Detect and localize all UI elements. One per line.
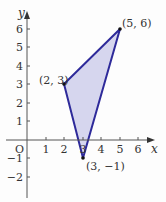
- x-axis-label: x: [151, 142, 158, 156]
- vertex-point: [81, 156, 85, 160]
- x-tick-label: 2: [61, 143, 68, 156]
- vertex-label: (3, −1): [86, 160, 125, 173]
- y-tick-label: 4: [16, 60, 23, 73]
- x-tick-label: 4: [98, 143, 105, 156]
- y-axis-label: y: [17, 6, 25, 20]
- y-tick-label: −2: [7, 171, 23, 184]
- diagram-canvas: x y O 1 2 3 4 5 6 6 5 4 3 2 1 −1 −2 (2, …: [0, 0, 166, 202]
- triangle-region: [64, 29, 120, 158]
- y-tick-label: 6: [16, 23, 23, 36]
- vertex-label: (5, 6): [122, 17, 152, 30]
- x-tick-label: 3: [80, 143, 87, 156]
- y-tick-label: 5: [16, 41, 23, 54]
- y-axis-arrow-icon: [24, 11, 30, 19]
- x-tick-label: 5: [117, 143, 124, 156]
- vertex-label: (2, 3): [39, 74, 69, 87]
- y-tick-label: 2: [16, 97, 23, 110]
- coordinate-diagram: x y O 1 2 3 4 5 6 6 5 4 3 2 1 −1 −2 (2, …: [0, 0, 166, 202]
- y-tick-label: 1: [16, 115, 23, 128]
- x-tick-label: 1: [43, 143, 50, 156]
- y-tick-label: −1: [7, 152, 23, 165]
- y-tick-label: 3: [16, 78, 23, 91]
- x-tick-label: 6: [135, 143, 142, 156]
